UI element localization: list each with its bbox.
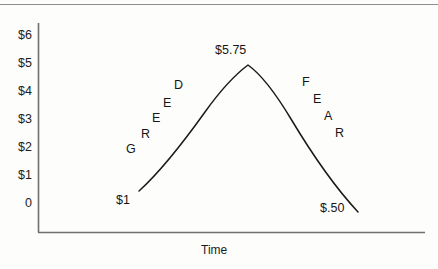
- ytick-label-1: $1: [4, 169, 32, 182]
- curve-letter-e-left-1: E: [152, 112, 160, 125]
- end-value-label: $.50: [320, 202, 344, 215]
- curve-letter-e-right: E: [313, 93, 321, 106]
- ytick-label-6: $6: [4, 29, 32, 42]
- ytick-label-2: $2: [4, 141, 32, 154]
- curve-letter-f: F: [302, 76, 310, 89]
- curve-letter-e-left-2: E: [163, 97, 171, 110]
- curve-letter-d: D: [174, 79, 183, 92]
- start-value-label: $1: [116, 194, 130, 207]
- curve-letter-r-left: R: [141, 128, 150, 141]
- curve-letter-a: A: [324, 110, 332, 123]
- x-axis-title: Time: [201, 244, 227, 256]
- chart-plot-area: [0, 0, 438, 269]
- chart-figure: $6 $5 $4 $3 $2 $1 0 G R E E D F E A R $1…: [0, 0, 438, 269]
- curve-letter-r-right: R: [335, 127, 344, 140]
- curve-letter-g: G: [126, 143, 136, 156]
- ytick-label-5: $5: [4, 57, 32, 70]
- ytick-label-0: 0: [4, 197, 32, 210]
- peak-value-label: $5.75: [215, 44, 246, 57]
- price-curve: [139, 65, 358, 212]
- ytick-label-4: $4: [4, 85, 32, 98]
- ytick-label-3: $3: [4, 113, 32, 126]
